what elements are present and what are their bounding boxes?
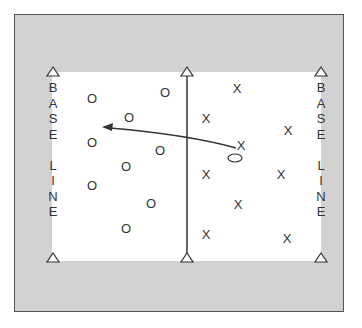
player-o: O	[155, 144, 165, 157]
triangle-icon	[181, 67, 193, 76]
player-x: X	[202, 228, 211, 241]
left-baseline-label: BASE LINE	[46, 80, 60, 220]
right-baseline-label: BASE LINE	[314, 80, 328, 220]
player-o: O	[87, 92, 97, 105]
arrowhead-icon	[102, 123, 113, 131]
baseline-letter: S	[46, 111, 60, 127]
ball-icon	[228, 154, 242, 162]
baseline-letter	[314, 142, 328, 158]
player-x: X	[283, 232, 292, 245]
baseline-letter: E	[314, 127, 328, 143]
baseline-letter: I	[314, 173, 328, 189]
baseline-letter: L	[314, 158, 328, 174]
player-x: X	[202, 112, 211, 125]
player-o: O	[160, 86, 170, 99]
triangle-icon	[181, 253, 193, 262]
player-x: X	[237, 139, 246, 152]
baseline-letter: B	[46, 80, 60, 96]
baseline-letter: I	[46, 173, 60, 189]
baseline-letter: L	[46, 158, 60, 174]
pass-arrow	[110, 128, 236, 148]
triangle-icon	[47, 253, 59, 262]
player-o: O	[121, 160, 131, 173]
player-o: O	[87, 179, 97, 192]
triangle-icon	[47, 67, 59, 76]
player-o: O	[146, 197, 156, 210]
baseline-letter: E	[314, 204, 328, 220]
baseline-letter	[46, 142, 60, 158]
player-o: O	[124, 111, 134, 124]
triangle-icon	[315, 67, 327, 76]
player-x: X	[233, 82, 242, 95]
player-x: X	[277, 168, 286, 181]
baseline-letter: E	[46, 204, 60, 220]
player-x: X	[284, 124, 293, 137]
player-o: O	[121, 222, 131, 235]
triangle-icon	[315, 253, 327, 262]
baseline-letter: B	[314, 80, 328, 96]
baseline-letter: S	[314, 111, 328, 127]
baseline-letter: N	[46, 189, 60, 205]
player-x: X	[202, 168, 211, 181]
baseline-letter: A	[314, 96, 328, 112]
baseline-letter: E	[46, 127, 60, 143]
baseline-letter: N	[314, 189, 328, 205]
player-x: X	[234, 198, 243, 211]
player-o: O	[87, 136, 97, 149]
baseline-letter: A	[46, 96, 60, 112]
